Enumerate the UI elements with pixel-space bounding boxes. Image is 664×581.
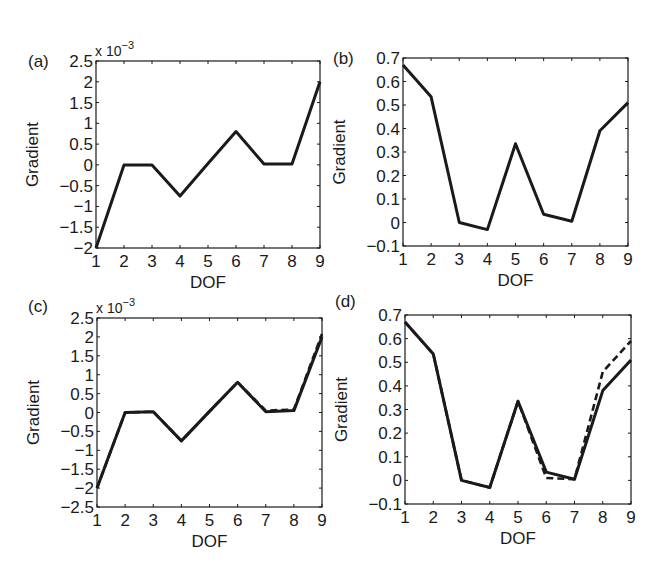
y-tick-label: 0.5 (376, 96, 400, 115)
y-tick-label: −2 (74, 239, 93, 258)
y-axis-label: Gradient (23, 122, 42, 187)
x-tick-label: 6 (542, 508, 551, 527)
x-tick-label: 7 (570, 508, 579, 527)
y-tick-label: 2.5 (70, 309, 94, 328)
y-tick-label: 0.5 (378, 353, 402, 372)
x-tick-label: 4 (485, 508, 494, 527)
y-tick-label: −1 (74, 197, 93, 216)
y-tick-label: 1 (85, 366, 94, 385)
y-tick-label: 2 (84, 73, 93, 92)
x-tick-label: 3 (457, 508, 466, 527)
y-tick-label: −1.5 (59, 218, 93, 237)
x-axis-label: DOF (498, 271, 534, 290)
y-tick-label: 0.2 (376, 167, 400, 186)
x-tick-label: 2 (429, 508, 438, 527)
x-tick-label: 9 (626, 508, 635, 527)
series-line-solid (403, 65, 628, 230)
y-multiplier: x 10−3 (95, 39, 134, 59)
y-tick-label: −0.5 (59, 177, 93, 196)
x-tick-label: 4 (177, 511, 186, 530)
y-tick-label: 0.5 (70, 385, 94, 404)
panel-d: 123456789−0.100.10.20.30.40.50.60.7DOFGr… (332, 292, 636, 548)
x-tick-label: 4 (483, 250, 492, 269)
axes-frame (96, 61, 320, 248)
x-tick-label: 9 (317, 511, 326, 530)
x-tick-label: 3 (455, 250, 464, 269)
y-tick-label: 0.4 (378, 377, 402, 396)
x-tick-label: 7 (259, 252, 268, 271)
y-tick-label: −2.5 (60, 498, 94, 517)
x-tick-label: 2 (426, 250, 435, 269)
x-tick-label: 7 (567, 250, 576, 269)
y-tick-label: 0.6 (378, 330, 402, 349)
y-tick-label: 2.5 (69, 52, 93, 71)
y-tick-label: 0.1 (378, 448, 402, 467)
x-tick-label: 8 (289, 511, 298, 530)
panel-label: (a) (28, 52, 49, 71)
figure: 123456789−2−1.5−1−0.500.511.522.5DOFGrad… (0, 0, 664, 581)
x-tick-label: 3 (149, 511, 158, 530)
x-tick-label: 9 (623, 250, 632, 269)
y-axis-label: Gradient (332, 377, 351, 442)
x-tick-label: 8 (287, 252, 296, 271)
y-tick-label: 1.5 (69, 94, 93, 113)
x-tick-label: 2 (119, 252, 128, 271)
x-axis-label: DOF (500, 529, 536, 548)
y-tick-label: −0.1 (368, 495, 402, 514)
y-multiplier: x 10−3 (96, 296, 135, 316)
panel-label: (c) (28, 297, 48, 316)
panel-c: 123456789−2.5−2−1.5−1−0.500.511.522.5DOF… (24, 296, 327, 551)
x-tick-label: 3 (147, 252, 156, 271)
x-tick-label: 5 (205, 511, 214, 530)
y-tick-label: 0.1 (376, 190, 400, 209)
y-tick-label: 0.2 (378, 424, 402, 443)
x-tick-label: 9 (315, 252, 324, 271)
y-tick-label: 0.3 (376, 143, 400, 162)
series-line-solid (96, 82, 320, 248)
y-tick-label: −1.5 (60, 460, 94, 479)
y-axis-label: Gradient (24, 380, 43, 445)
y-tick-label: 0 (84, 156, 93, 175)
x-tick-label: 8 (598, 508, 607, 527)
x-tick-label: 5 (203, 252, 212, 271)
y-tick-label: 1.5 (70, 347, 94, 366)
y-tick-label: 0 (393, 471, 402, 490)
y-tick-label: 1 (84, 114, 93, 133)
panel-a: 123456789−2−1.5−1−0.500.511.522.5DOFGrad… (23, 39, 325, 292)
x-tick-label: 6 (539, 250, 548, 269)
y-tick-label: 0 (85, 404, 94, 423)
x-tick-label: 6 (233, 511, 242, 530)
y-tick-label: −0.1 (366, 237, 400, 256)
y-tick-label: −1 (75, 441, 94, 460)
y-tick-label: 0.5 (69, 135, 93, 154)
panel-label: (b) (333, 49, 354, 68)
y-tick-label: 0.7 (378, 306, 402, 325)
y-tick-label: −0.5 (60, 422, 94, 441)
x-axis-label: DOF (190, 273, 226, 292)
y-tick-label: 0.4 (376, 120, 400, 139)
x-tick-label: 7 (261, 511, 270, 530)
y-tick-label: 0.3 (378, 401, 402, 420)
x-tick-label: 6 (231, 252, 240, 271)
y-tick-label: 0 (391, 214, 400, 233)
x-tick-label: 5 (511, 250, 520, 269)
x-tick-label: 2 (120, 511, 129, 530)
x-tick-label: 5 (513, 508, 522, 527)
y-axis-label: Gradient (330, 119, 349, 184)
y-tick-label: 0.7 (376, 49, 400, 68)
panel-b: 123456789−0.100.10.20.30.40.50.60.7DOFGr… (330, 49, 633, 290)
y-tick-label: 0.6 (376, 73, 400, 92)
y-tick-label: −2 (75, 479, 94, 498)
x-tick-label: 8 (595, 250, 604, 269)
x-axis-label: DOF (192, 532, 228, 551)
x-tick-label: 4 (175, 252, 184, 271)
y-tick-label: 2 (85, 328, 94, 347)
panel-label: (d) (335, 292, 356, 311)
